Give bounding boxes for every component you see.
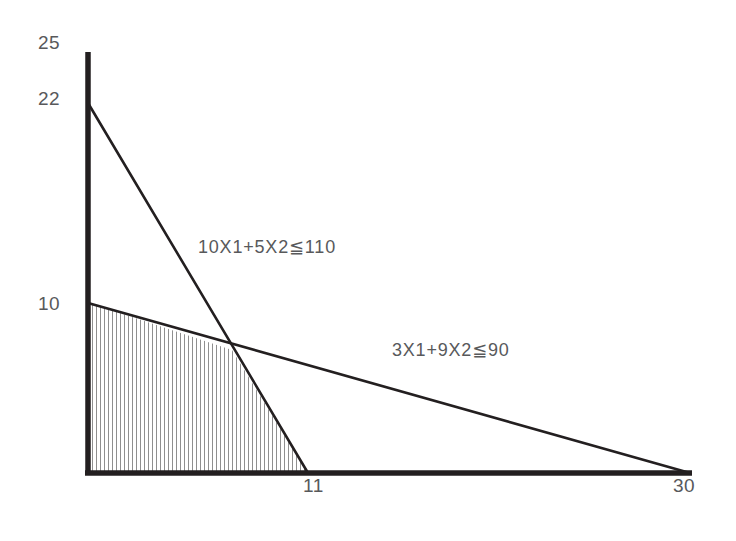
constraint-label-10x1-5x2-110: 10X1+5X2≦110 — [198, 238, 336, 256]
feasible-region-hatched — [90, 303, 307, 472]
x-axis-tick-label-11: 11 — [303, 476, 324, 495]
constraint-label-3x1-9x2-90: 3X1+9X2≦90 — [392, 341, 510, 359]
y-axis-tick-label-22: 22 — [38, 89, 60, 108]
y-axis-tick-label-10: 10 — [38, 294, 60, 313]
plot-svg — [0, 0, 736, 541]
linear-programming-chart: 25 22 10 11 30 10X1+5X2≦110 3X1+9X2≦90 — [0, 0, 736, 541]
y-axis-tick-label-25: 25 — [38, 33, 60, 52]
x-axis-tick-label-30: 30 — [673, 476, 695, 495]
